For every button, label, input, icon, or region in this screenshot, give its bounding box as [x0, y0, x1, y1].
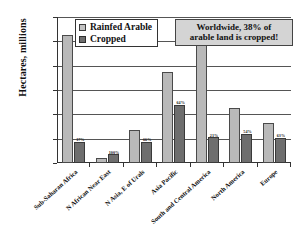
bar — [196, 41, 207, 163]
bar-value-label: 64% — [176, 101, 184, 105]
x-label-cell: South and Central America — [191, 166, 224, 241]
legend-item: Rainfed Arable — [79, 22, 152, 32]
annotation-line-2: arable land is cropped! — [178, 32, 290, 42]
bar-value-label: 21% — [210, 134, 218, 138]
bar-value-label: 17% — [76, 138, 84, 142]
x-axis-labels: Sub-Saharan AfricaN African Near EastN A… — [57, 166, 291, 241]
legend-item: Cropped — [79, 34, 152, 44]
dark-gray-swatch-icon — [79, 36, 86, 43]
light-gray-swatch-icon — [79, 24, 86, 31]
x-label-cell: N Asia, E of Urals — [124, 166, 157, 241]
legend: Rainfed Arable Cropped — [75, 19, 158, 47]
annotation-line-1: Worldwide, 38% of — [178, 22, 290, 32]
legend-item-label: Cropped — [90, 34, 126, 44]
x-label-cell: North America — [224, 166, 257, 241]
x-tick-label-text: Europe — [259, 168, 279, 187]
x-label-cell: Europe — [258, 166, 291, 241]
annotation-callout: Worldwide, 38% of arable land is cropped… — [175, 19, 293, 46]
bar-chart: Hectares, millions 120010008006004002000… — [0, 0, 301, 241]
bar-value-label: 63% — [277, 134, 285, 138]
bar — [62, 35, 73, 163]
y-axis-title: Hectares, millions — [17, 0, 28, 118]
legend-item-label: Rainfed Arable — [90, 22, 152, 32]
bar-value-label: 100% — [109, 151, 119, 155]
bar: 64% — [174, 105, 185, 163]
